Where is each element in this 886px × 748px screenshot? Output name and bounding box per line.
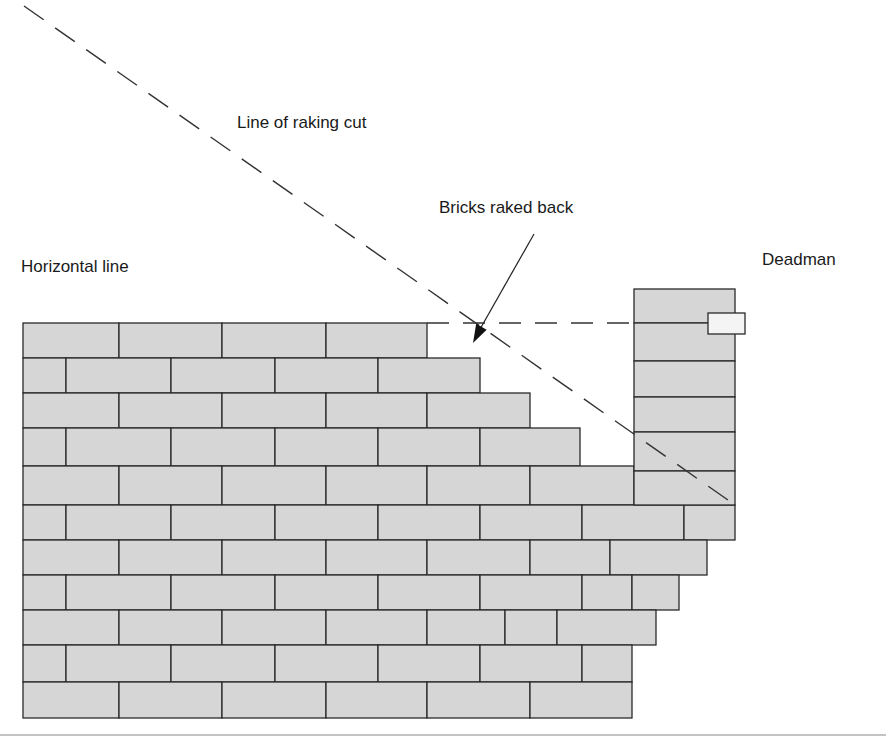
brick [427,610,505,645]
deadman-brick [634,397,735,432]
brick [684,505,735,540]
brick [171,505,275,540]
brick [610,540,707,575]
brick [427,682,530,718]
brick [23,575,66,610]
brick [23,505,66,540]
brick [326,323,427,358]
brick [66,505,171,540]
brick [326,540,427,575]
brick [557,610,656,645]
brick [222,610,326,645]
brick [378,575,480,610]
brick [275,505,378,540]
brick [480,645,582,682]
brick-wall [23,323,735,718]
raking-cut-label: Line of raking cut [237,113,366,133]
brick [326,466,427,505]
brick [23,428,66,466]
brick [66,428,171,466]
brick [171,358,275,393]
brick [427,466,530,505]
brick [530,466,634,505]
brick [378,358,480,393]
deadman-brick [634,432,735,471]
brick [222,540,326,575]
brick [480,505,582,540]
brickwork-diagram [0,0,886,748]
brick [119,540,222,575]
brick [582,645,632,682]
brick [632,575,679,610]
brick [326,610,427,645]
brick [171,575,275,610]
brick [119,323,222,358]
brick [66,358,171,393]
brick [378,428,480,466]
brick [222,393,326,428]
brick [23,323,119,358]
brick [582,575,632,610]
deadman-label: Deadman [762,250,836,270]
brick [480,575,582,610]
brick [275,575,378,610]
brick [66,575,171,610]
brick [326,682,427,718]
brick [505,610,557,645]
brick [275,645,378,682]
deadman-brick [634,361,735,397]
brick [530,540,610,575]
brick [275,358,378,393]
brick [222,682,326,718]
brick [582,505,684,540]
brick [119,393,222,428]
line-block-tag [708,313,745,334]
brick [171,428,275,466]
brick [222,323,326,358]
brick [326,393,427,428]
brick [275,428,378,466]
brick [480,428,580,466]
brick [530,682,632,718]
brick [427,540,530,575]
brick [171,645,275,682]
bricks-raked-back-label: Bricks raked back [439,198,573,218]
brick [427,393,530,428]
brick [119,682,222,718]
brick [378,645,480,682]
deadman-brick [634,471,735,505]
brick [378,505,480,540]
brick [23,540,119,575]
brick [23,645,66,682]
arrowhead-icon [473,324,487,343]
brick [222,466,326,505]
brick [23,682,119,718]
horizontal-line-label: Horizontal line [21,257,129,277]
brick [119,466,222,505]
brick [23,610,119,645]
brick [23,393,119,428]
brick [66,645,171,682]
brick [23,466,119,505]
brick [23,358,66,393]
brick [119,610,222,645]
